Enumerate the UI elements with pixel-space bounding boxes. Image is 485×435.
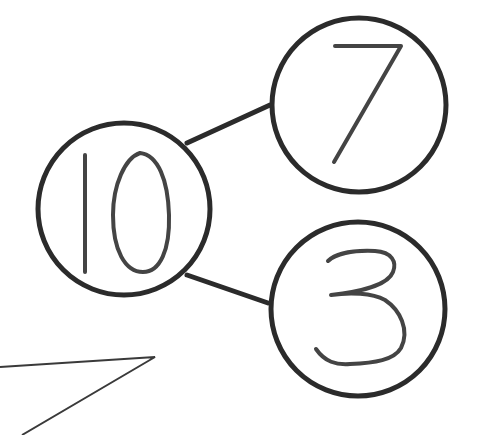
whole-node [38,123,210,295]
part-node-bottom-value [316,251,404,364]
connector-whole-to-top-part [187,105,270,143]
part-node-bottom [271,222,445,396]
part-node-top-value [334,46,401,162]
part-node-top [272,18,446,192]
connector-whole-to-bottom-part [187,275,268,303]
whole-node-value [85,153,169,272]
whole-node-circle [38,123,210,295]
part-node-bottom-circle [271,222,445,396]
pointer-tail [0,357,155,435]
number-bond-diagram [0,0,485,435]
